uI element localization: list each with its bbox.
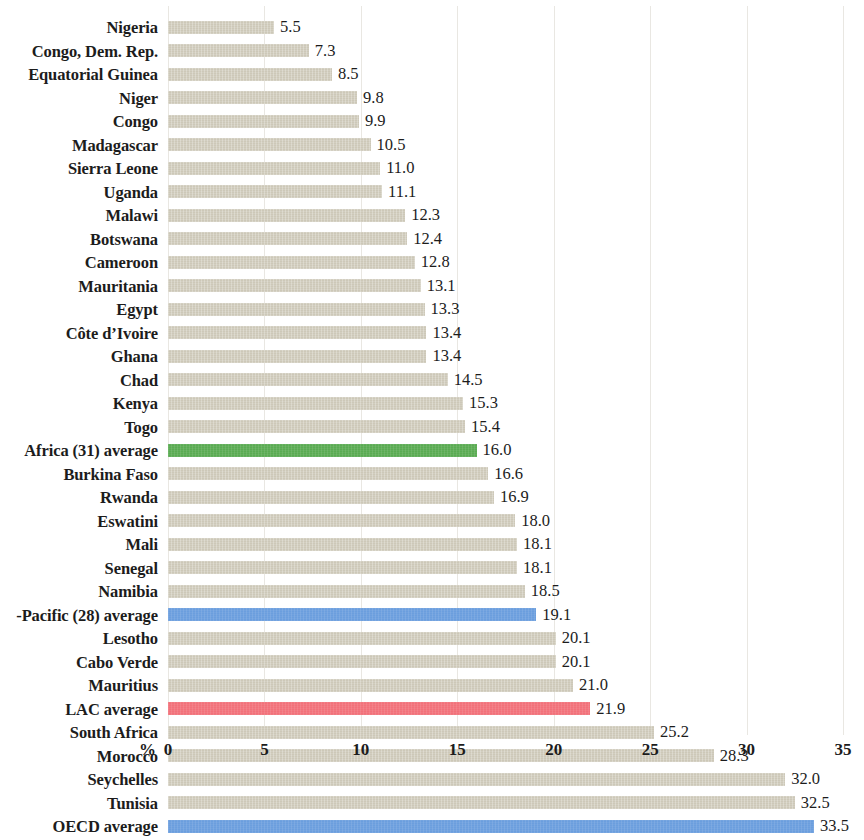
bar: [168, 279, 421, 292]
bar: [168, 209, 405, 222]
bar: [168, 467, 488, 480]
bar-row: Kenya15.3: [0, 393, 864, 417]
bar-row: Mali18.1: [0, 534, 864, 558]
bar-value-label: 5.5: [280, 17, 301, 37]
bar-value-label: 15.3: [469, 393, 498, 413]
bar: [168, 350, 426, 363]
category-label: Kenya: [0, 394, 158, 413]
bar: [168, 796, 795, 809]
bar-value-label: 12.3: [411, 205, 440, 225]
bar-value-label: 32.0: [791, 769, 820, 789]
bar: [168, 232, 407, 245]
category-label: Eswatini: [0, 512, 158, 531]
category-label: Egypt: [0, 300, 158, 319]
category-label: Nigeria: [0, 18, 158, 37]
bar-value-label: 7.3: [315, 41, 336, 61]
bar-value-label: 20.1: [562, 628, 591, 648]
category-label: Senegal: [0, 559, 158, 578]
bar: [168, 444, 477, 457]
category-label: Botswana: [0, 230, 158, 249]
category-label: Côte d’Ivoire: [0, 324, 158, 343]
bar-value-label: 11.0: [386, 158, 414, 178]
category-label: Mauritania: [0, 277, 158, 296]
x-axis-tick-label: 25: [642, 739, 659, 761]
category-label: Lesotho: [0, 629, 158, 648]
bar-row: Botswana12.4: [0, 229, 864, 253]
bar-row: Uganda11.1: [0, 182, 864, 206]
bar-value-label: 13.4: [432, 346, 461, 366]
bar-row: Nigeria5.5: [0, 17, 864, 41]
bar-row: Côte d’Ivoire13.4: [0, 323, 864, 347]
bar-value-label: 8.5: [338, 64, 359, 84]
bar: [168, 185, 382, 198]
category-label: Mali: [0, 535, 158, 554]
bar: [168, 397, 463, 410]
bar-row: Egypt13.3: [0, 299, 864, 323]
bar-value-label: 18.0: [521, 511, 550, 531]
category-label: OECD average: [0, 817, 158, 836]
category-label: Ghana: [0, 347, 158, 366]
category-label: Togo: [0, 418, 158, 437]
category-label: Cameroon: [0, 253, 158, 272]
bar-value-label: 14.5: [454, 370, 483, 390]
bar-row: -Pacific (28) average19.1: [0, 605, 864, 629]
bar-value-label: 16.0: [483, 440, 512, 460]
x-axis: % 05101520253035: [0, 735, 864, 767]
x-axis-tick-label: 5: [260, 739, 269, 761]
category-label: Equatorial Guinea: [0, 65, 158, 84]
bar-value-label: 16.6: [494, 464, 523, 484]
bar-value-label: 9.9: [365, 111, 386, 131]
bar-value-label: 18.5: [531, 581, 560, 601]
category-label: LAC average: [0, 700, 158, 719]
bar-row: Congo9.9: [0, 111, 864, 135]
bar-row: OECD average33.5: [0, 816, 864, 840]
bar: [168, 115, 359, 128]
category-label: Tunisia: [0, 794, 158, 813]
category-label: -Pacific (28) average: [0, 606, 158, 625]
category-label: Niger: [0, 89, 158, 108]
bar-row: Senegal18.1: [0, 558, 864, 582]
bar-value-label: 21.9: [596, 699, 625, 719]
bar-value-label: 33.5: [820, 816, 849, 836]
category-label: Seychelles: [0, 770, 158, 789]
category-label: Uganda: [0, 183, 158, 202]
bar: [168, 514, 515, 527]
bar-value-label: 19.1: [542, 605, 571, 625]
x-axis-unit-label: %: [139, 739, 156, 761]
bar-row: Niger9.8: [0, 88, 864, 112]
x-axis-tick-label: 35: [835, 739, 852, 761]
bar-row: Madagascar10.5: [0, 135, 864, 159]
bar-row: Africa (31) average16.0: [0, 440, 864, 464]
bar-value-label: 21.0: [579, 675, 608, 695]
bar: [168, 91, 357, 104]
bar: [168, 820, 814, 833]
bar-row: Cameroon12.8: [0, 252, 864, 276]
x-axis-tick-label: 10: [352, 739, 369, 761]
category-label: Rwanda: [0, 488, 158, 507]
bar-value-label: 13.1: [427, 276, 456, 296]
bar-row: Mauritius21.0: [0, 675, 864, 699]
bar-row: Cabo Verde20.1: [0, 652, 864, 676]
bar: [168, 21, 274, 34]
bar-row: Ghana13.4: [0, 346, 864, 370]
bar-value-label: 12.4: [413, 229, 442, 249]
bar-value-label: 18.1: [523, 534, 552, 554]
x-axis-tick-label: 30: [738, 739, 755, 761]
bar-value-label: 18.1: [523, 558, 552, 578]
bar-row: LAC average21.9: [0, 699, 864, 723]
bar: [168, 608, 536, 621]
bar-row: Chad14.5: [0, 370, 864, 394]
bar: [168, 44, 309, 57]
x-axis-tick-label: 0: [164, 739, 173, 761]
category-label: Congo: [0, 112, 158, 131]
category-label: Mauritius: [0, 676, 158, 695]
bar: [168, 491, 494, 504]
bar-value-label: 15.4: [471, 417, 500, 437]
bar-value-label: 9.8: [363, 88, 384, 108]
bar: [168, 538, 517, 551]
bar: [168, 138, 371, 151]
bar: [168, 326, 426, 339]
bar-row: Malawi12.3: [0, 205, 864, 229]
bar-value-label: 16.9: [500, 487, 529, 507]
bar-row: Sierra Leone11.0: [0, 158, 864, 182]
